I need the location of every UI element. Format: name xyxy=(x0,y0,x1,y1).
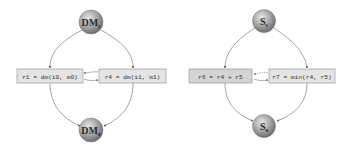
box-text: r4 = dm(i1, m1) xyxy=(105,74,161,81)
edge-right-to-bottom xyxy=(277,83,307,121)
edge-top-to-left xyxy=(225,28,255,68)
box-r6[interactable]: r6 = r4 + r5 xyxy=(189,69,252,83)
node-s-start[interactable]: Ss xyxy=(253,10,276,33)
edge-left-to-bottom xyxy=(225,83,253,121)
node-s-end[interactable]: Se xyxy=(253,115,276,138)
box-text: r6 = r4 + r5 xyxy=(198,74,243,81)
node-label: DM xyxy=(81,17,98,28)
node-subscript: e xyxy=(98,131,101,137)
box-text: r1 = dm(i0, m0) xyxy=(22,74,78,81)
edge-left-to-right xyxy=(254,79,268,81)
box-text: r7 = min(r4, r5) xyxy=(272,74,331,81)
s-graph: Ss Se r6 = r4 + r5 r7 = min(r4, r5) xyxy=(189,10,335,138)
edge-left-to-right xyxy=(84,79,98,81)
node-dm-start[interactable]: DMs xyxy=(79,10,103,34)
edge-top-to-right xyxy=(274,28,307,68)
diagram-canvas: DMs DMe r1 = dm(i0, m0) r4 = dm(i1, m1) xyxy=(0,0,351,150)
edge-right-to-left xyxy=(254,72,268,74)
box-r7[interactable]: r7 = min(r4, r5) xyxy=(269,69,335,83)
dm-graph: DMs DMe r1 = dm(i0, m0) r4 = dm(i1, m1) xyxy=(17,10,166,142)
box-r1[interactable]: r1 = dm(i0, m0) xyxy=(17,69,83,83)
edge-top-to-left xyxy=(50,30,82,68)
box-r4[interactable]: r4 = dm(i1, m1) xyxy=(99,69,166,83)
edge-left-to-bottom xyxy=(50,83,80,126)
edge-right-to-left xyxy=(84,72,98,73)
edge-right-to-bottom xyxy=(104,83,133,126)
node-label: DM xyxy=(81,125,98,136)
edge-top-to-right xyxy=(101,30,133,68)
node-subscript: e xyxy=(265,127,268,133)
node-dm-end[interactable]: DMe xyxy=(79,118,103,142)
